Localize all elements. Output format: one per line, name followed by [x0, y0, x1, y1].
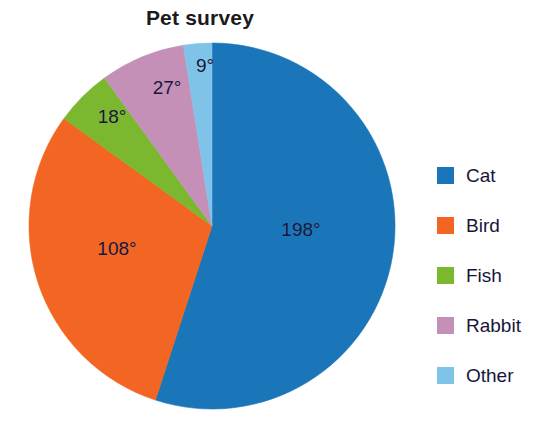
pie-chart-figure: Pet survey 198°108°18°27°9° CatBirdFishR…: [0, 0, 553, 424]
legend-label: Rabbit: [466, 316, 521, 335]
legend-item-rabbit[interactable]: Rabbit: [437, 300, 549, 350]
legend-label: Other: [466, 366, 514, 385]
pie-plot-area: 198°108°18°27°9°: [0, 0, 430, 424]
legend-label: Bird: [466, 216, 500, 235]
legend-item-bird[interactable]: Bird: [437, 200, 549, 250]
legend-item-fish[interactable]: Fish: [437, 250, 549, 300]
pie-slices-group: [29, 43, 395, 409]
legend-label: Fish: [466, 266, 502, 285]
legend-swatch-icon: [437, 267, 454, 284]
legend-swatch-icon: [437, 367, 454, 384]
pie-svg: [0, 0, 430, 424]
slice-label-rabbit: 27°: [153, 77, 182, 99]
slice-label-bird: 108°: [97, 238, 136, 260]
legend-item-cat[interactable]: Cat: [437, 150, 549, 200]
legend-label: Cat: [466, 166, 496, 185]
slice-label-cat: 198°: [281, 219, 320, 241]
slice-label-fish: 18°: [98, 106, 127, 128]
legend: CatBirdFishRabbitOther: [437, 150, 549, 400]
legend-swatch-icon: [437, 217, 454, 234]
legend-swatch-icon: [437, 317, 454, 334]
legend-swatch-icon: [437, 167, 454, 184]
legend-item-other[interactable]: Other: [437, 350, 549, 400]
slice-label-other: 9°: [196, 55, 214, 77]
